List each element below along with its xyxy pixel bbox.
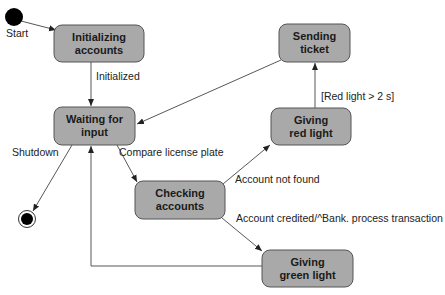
state-label-line1: Initializing <box>72 31 126 43</box>
transition-wait-to-final: Shutdown <box>12 145 72 211</box>
state-diagram: Start Initialized Shutdown Compare licen… <box>0 0 445 295</box>
edge-label-start: Start <box>6 27 28 39</box>
edge-label-account-not-found: Account not found <box>235 173 320 185</box>
edge-label-account-credited: Account credited/^Bank. process transact… <box>236 212 443 224</box>
state-label-line2: green light <box>279 269 336 281</box>
state-waiting-for-input[interactable]: Waiting for input <box>54 107 135 145</box>
state-label-line1: Sending <box>293 30 336 42</box>
state-label-line1: Giving <box>290 256 324 268</box>
state-label-line2: accounts <box>156 200 204 212</box>
transition-check-to-green: Account credited/^Bank. process transact… <box>222 212 443 251</box>
edge-label-shutdown: Shutdown <box>12 146 59 158</box>
state-checking-accounts[interactable]: Checking accounts <box>135 181 225 219</box>
edge-label-initialized: Initialized <box>96 70 140 82</box>
transition-check-to-red: Account not found <box>223 145 320 185</box>
state-initializing-accounts[interactable]: Initializing accounts <box>54 25 144 62</box>
state-label-line1: Checking <box>155 187 205 199</box>
transition-red-to-send: [Red light > 2 s] <box>315 63 394 108</box>
final-state <box>19 211 36 228</box>
state-label-line2: red light <box>289 127 333 139</box>
state-label-line2: accounts <box>75 44 123 56</box>
transition-init-to-wait: Initialized <box>91 62 140 106</box>
edge-label-compare-license-plate: Compare license plate <box>119 146 224 158</box>
transition-wait-to-check: Compare license plate <box>117 145 224 182</box>
transition-send-to-wait <box>137 60 281 124</box>
edge-label-red-light-guard: [Red light > 2 s] <box>321 90 394 102</box>
state-label-line1: Giving <box>294 114 328 126</box>
state-giving-green-light[interactable]: Giving green light <box>262 250 353 287</box>
edge-line <box>137 60 281 124</box>
initial-state <box>5 8 23 26</box>
state-sending-ticket[interactable]: Sending ticket <box>279 24 350 62</box>
final-state-dot <box>21 213 33 225</box>
state-label-line1: Waiting for <box>66 113 124 125</box>
state-label-line2: input <box>81 126 108 138</box>
state-label-line2: ticket <box>300 43 329 55</box>
state-giving-red-light[interactable]: Giving red light <box>271 108 351 145</box>
